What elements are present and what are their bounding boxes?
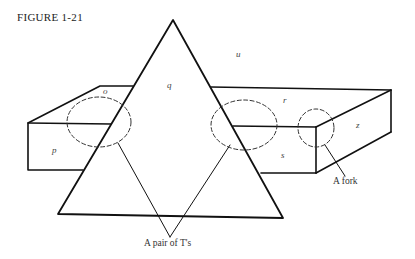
label-s: s — [281, 150, 285, 160]
label-z: z — [356, 120, 360, 130]
right-slab — [211, 87, 391, 173]
label-u: u — [236, 49, 241, 59]
label-q: q — [167, 80, 172, 90]
label-o: o — [103, 86, 108, 96]
leader-lines — [118, 143, 345, 237]
annotation-pair-of-ts: A pair of T's — [144, 238, 191, 248]
line-drawing-diagram — [0, 0, 415, 259]
label-r: r — [283, 95, 287, 105]
left-slab — [28, 86, 133, 170]
label-p: p — [52, 145, 57, 155]
annotation-fork: A fork — [333, 176, 358, 186]
triangle — [58, 20, 283, 218]
